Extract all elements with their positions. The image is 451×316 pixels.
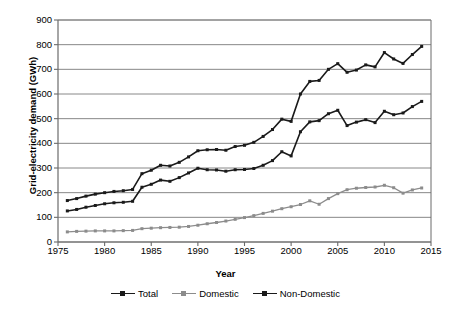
data-point-marker <box>252 141 255 144</box>
x-tick-label: 2005 <box>315 246 361 256</box>
data-point-marker <box>131 229 134 232</box>
data-point-marker <box>215 221 218 224</box>
data-point-marker <box>84 230 87 233</box>
y-tick-label: 700 <box>12 64 52 74</box>
y-tick-label: 300 <box>12 163 52 173</box>
data-point-marker <box>402 192 405 195</box>
x-tick-label: 1975 <box>35 246 81 256</box>
data-point-marker <box>402 62 405 65</box>
data-point-marker <box>364 118 367 121</box>
data-point-marker <box>262 135 265 138</box>
data-point-marker <box>224 149 227 152</box>
data-point-marker <box>234 168 237 171</box>
data-point-marker <box>196 167 199 170</box>
data-point-marker <box>75 230 78 233</box>
data-point-marker <box>234 145 237 148</box>
data-point-marker <box>336 192 339 195</box>
data-point-marker <box>66 230 69 233</box>
data-point-marker <box>318 203 321 206</box>
data-point-marker <box>94 229 97 232</box>
data-point-marker <box>252 214 255 217</box>
y-tick-label: 800 <box>12 40 52 50</box>
legend-item-total[interactable]: Total <box>111 288 158 299</box>
legend-label: Total <box>138 288 158 299</box>
x-tick-label: 2015 <box>408 246 451 256</box>
data-point-marker <box>318 119 321 122</box>
data-point-marker <box>178 161 181 164</box>
legend-marker-icon <box>253 290 277 298</box>
data-point-marker <box>206 222 209 225</box>
data-point-marker <box>112 190 115 193</box>
data-point-marker <box>243 168 246 171</box>
data-point-marker <box>75 197 78 200</box>
data-point-marker <box>196 224 199 227</box>
legend-marker-icon <box>172 290 196 298</box>
x-axis-title: Year <box>0 268 451 279</box>
data-point-marker <box>131 188 134 191</box>
data-point-marker <box>131 200 134 203</box>
data-point-marker <box>411 105 414 108</box>
data-point-marker <box>262 164 265 167</box>
data-point-marker <box>336 109 339 112</box>
data-point-marker <box>327 68 330 71</box>
data-point-marker <box>355 187 358 190</box>
data-point-marker <box>299 203 302 206</box>
data-point-marker <box>168 165 171 168</box>
data-point-marker <box>280 118 283 121</box>
data-point-marker <box>206 148 209 151</box>
x-tick-label: 1985 <box>128 246 174 256</box>
data-point-marker <box>122 189 125 192</box>
chart-container: Grid-electricity demand (GWh) Year 90080… <box>0 0 451 316</box>
data-point-marker <box>346 71 349 74</box>
data-point-marker <box>364 63 367 66</box>
data-point-marker <box>420 100 423 103</box>
data-point-marker <box>262 212 265 215</box>
legend-label: Domestic <box>199 288 239 299</box>
data-point-marker <box>402 111 405 114</box>
legend-item-non-domestic[interactable]: Non-Domestic <box>253 288 340 299</box>
x-tick-label: 1990 <box>175 246 221 256</box>
data-point-marker <box>187 171 190 174</box>
legend-item-domestic[interactable]: Domestic <box>172 288 239 299</box>
data-point-marker <box>336 62 339 65</box>
data-point-marker <box>84 206 87 209</box>
data-point-marker <box>187 155 190 158</box>
data-point-marker <box>308 80 311 83</box>
x-tick-label: 2000 <box>268 246 314 256</box>
series-total <box>66 45 423 202</box>
data-point-marker <box>112 201 115 204</box>
data-point-marker <box>420 45 423 48</box>
data-point-marker <box>150 227 153 230</box>
data-point-marker <box>327 112 330 115</box>
data-point-marker <box>187 225 190 228</box>
data-point-marker <box>355 69 358 72</box>
series-non-domestic <box>66 100 423 213</box>
data-point-marker <box>150 169 153 172</box>
data-point-marker <box>280 150 283 153</box>
data-point-marker <box>252 167 255 170</box>
data-point-marker <box>392 186 395 189</box>
x-tick-label: 2010 <box>361 246 407 256</box>
data-point-marker <box>374 185 377 188</box>
data-point-marker <box>346 124 349 127</box>
data-point-marker <box>178 226 181 229</box>
y-tick-label: 500 <box>12 114 52 124</box>
data-point-marker <box>271 128 274 131</box>
data-point-marker <box>355 121 358 124</box>
data-point-marker <box>383 110 386 113</box>
data-point-marker <box>411 53 414 56</box>
data-point-marker <box>140 227 143 230</box>
data-point-marker <box>318 79 321 82</box>
data-point-marker <box>215 168 218 171</box>
data-point-marker <box>159 226 162 229</box>
series-line <box>67 101 421 211</box>
data-point-marker <box>206 168 209 171</box>
data-point-marker <box>84 195 87 198</box>
data-point-marker <box>224 170 227 173</box>
data-point-marker <box>168 180 171 183</box>
data-point-marker <box>271 159 274 162</box>
data-point-marker <box>392 57 395 60</box>
data-point-marker <box>112 229 115 232</box>
y-tick-label: 200 <box>12 188 52 198</box>
y-tick-label: 900 <box>12 15 52 25</box>
